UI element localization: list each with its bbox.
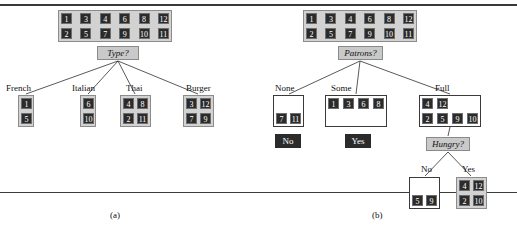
example-chip: 2 <box>306 28 317 39</box>
example-chip: 6 <box>83 98 94 109</box>
root-example-set-b: 1 3 4 6 8 12 2 5 7 9 10 11 <box>303 10 417 42</box>
example-chip: 4 <box>345 13 356 24</box>
example-chip: 4 <box>100 13 111 24</box>
branch-label-none: None <box>275 83 295 93</box>
example-chip: 12 <box>158 13 169 24</box>
example-chip: 10 <box>473 195 484 206</box>
branch-label-thai: Thai <box>126 83 143 93</box>
example-chip-empty <box>358 113 369 124</box>
branch-set-full: 4 12 2 5 9 10 <box>419 95 481 127</box>
decision-node-type[interactable]: Type? <box>97 46 139 60</box>
branch-label-full: Full <box>435 83 450 93</box>
example-chip: 8 <box>137 98 148 109</box>
branch-label-some: Some <box>331 83 352 93</box>
example-chip: 5 <box>412 195 423 206</box>
example-chip: 2 <box>61 28 72 39</box>
example-chip: 3 <box>80 13 91 24</box>
example-chip: 1 <box>61 13 72 24</box>
example-chip: 1 <box>306 13 317 24</box>
example-chip-empty <box>328 113 339 124</box>
subfigure-caption-a: (a) <box>110 210 120 220</box>
example-chip: 12 <box>403 13 414 24</box>
example-chip: 2 <box>459 195 470 206</box>
example-chip: 9 <box>200 113 211 124</box>
root-example-set-a: 1 3 4 6 8 12 2 5 7 9 10 11 <box>58 10 172 42</box>
example-chip: 2 <box>422 113 433 124</box>
example-chip: 1 <box>21 98 32 109</box>
example-chip: 6 <box>364 13 375 24</box>
example-chip: 11 <box>403 28 414 39</box>
example-chip: 3 <box>343 98 354 109</box>
example-chip-empty <box>412 180 423 191</box>
example-chip-empty <box>426 180 437 191</box>
leaf-answer-yes[interactable]: Yes <box>345 134 371 148</box>
example-chip: 8 <box>139 13 150 24</box>
example-chip: 3 <box>186 98 197 109</box>
example-chip-empty <box>373 113 384 124</box>
branch-set-hungry-yes: 4 12 2 10 <box>456 177 487 209</box>
example-chip: 12 <box>473 180 484 191</box>
example-chip: 11 <box>137 113 148 124</box>
leaf-answer-no[interactable]: No <box>275 134 301 148</box>
example-chip: 12 <box>200 98 211 109</box>
example-chip: 10 <box>83 113 94 124</box>
example-chip: 7 <box>100 28 111 39</box>
example-chip: 10 <box>384 28 395 39</box>
example-chip: 9 <box>364 28 375 39</box>
decision-node-hungry[interactable]: Hungry? <box>426 137 470 151</box>
example-chip: 8 <box>373 98 384 109</box>
example-chip-empty <box>290 98 301 109</box>
example-chip-empty <box>343 113 354 124</box>
example-chip: 5 <box>21 113 32 124</box>
example-chip-empty <box>467 98 478 109</box>
branch-label-hungry-yes: Yes <box>462 164 475 174</box>
branch-label-hungry-no: No <box>421 164 432 174</box>
branch-set-none: 7 11 <box>273 95 304 127</box>
branch-label-burger: Burger <box>186 83 211 93</box>
example-chip: 6 <box>358 98 369 109</box>
branch-label-french: French <box>6 83 31 93</box>
example-chip: 5 <box>80 28 91 39</box>
example-chip-empty <box>276 98 287 109</box>
branch-set-hungry-no: 5 9 <box>409 177 440 209</box>
example-chip: 11 <box>290 113 301 124</box>
example-chip: 7 <box>276 113 287 124</box>
subfigure-caption-b: (b) <box>372 210 383 220</box>
example-chip: 1 <box>328 98 339 109</box>
example-chip: 3 <box>325 13 336 24</box>
example-chip: 12 <box>437 98 448 109</box>
example-chip: 5 <box>437 113 448 124</box>
example-chip: 6 <box>119 13 130 24</box>
example-chip: 10 <box>139 28 150 39</box>
example-chip: 8 <box>384 13 395 24</box>
example-chip: 9 <box>452 113 463 124</box>
example-chip: 5 <box>325 28 336 39</box>
branch-label-italian: Italian <box>72 83 95 93</box>
example-chip: 9 <box>426 195 437 206</box>
branch-set-thai: 4 8 2 11 <box>120 95 151 127</box>
example-chip: 4 <box>459 180 470 191</box>
example-chip: 9 <box>119 28 130 39</box>
example-chip: 2 <box>123 113 134 124</box>
branch-set-italian: 6 10 <box>80 95 96 127</box>
example-chip: 11 <box>158 28 169 39</box>
branch-set-some: 1 3 6 8 <box>325 95 387 127</box>
example-chip: 7 <box>186 113 197 124</box>
example-chip: 7 <box>345 28 356 39</box>
example-chip: 4 <box>422 98 433 109</box>
branch-set-burger: 3 12 7 9 <box>183 95 214 127</box>
figure-canvas: 1 3 4 6 8 12 2 5 7 9 10 11 Type? French … <box>0 0 517 237</box>
example-chip-empty <box>452 98 463 109</box>
example-chip: 4 <box>123 98 134 109</box>
branch-set-french: 1 5 <box>18 95 34 127</box>
decision-node-patrons[interactable]: Patrons? <box>338 46 383 60</box>
example-chip: 10 <box>467 113 478 124</box>
